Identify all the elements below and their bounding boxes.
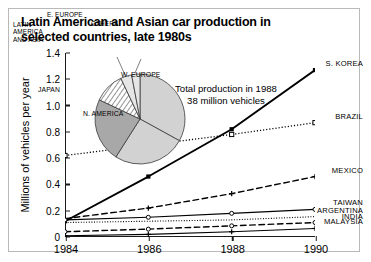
- series-line-argentina: [65, 217, 315, 223]
- y-tick-label: 0.6: [46, 153, 66, 164]
- series-line-malaysia: [65, 228, 315, 235]
- pie-label-w-europe: W. EUROPE: [121, 71, 160, 79]
- data-point-marker: [313, 221, 315, 225]
- x-tick-mark: [315, 236, 316, 241]
- y-tick-label: 1.2: [46, 74, 66, 85]
- y-tick-label: 1.4: [46, 48, 66, 59]
- x-tick-label: 1990: [304, 236, 328, 255]
- plot-area: 00.20.40.60.81.01.21.41984198619881990 L…: [9, 9, 361, 253]
- x-tick-label: 1988: [220, 236, 244, 255]
- data-point-marker: [312, 174, 315, 179]
- pie-label-e-europe: E. EUROPE: [47, 11, 83, 18]
- data-point-marker: [313, 121, 315, 125]
- data-point-marker: [146, 205, 151, 210]
- pie-label-n-america: N. AMERICA: [83, 110, 123, 118]
- chart-card: Latin American and Asian car production …: [8, 8, 360, 252]
- data-point-marker: [312, 226, 315, 231]
- series-label-brazil: BRAZIL: [317, 111, 363, 120]
- data-point-marker: [146, 232, 151, 237]
- data-point-marker: [230, 211, 234, 215]
- data-point-marker: [229, 191, 234, 196]
- pie-label-latin-america-asia: LATIN AMERICA AND ASIA: [13, 21, 43, 43]
- data-point-marker: [230, 224, 234, 228]
- y-tick-label: 0.4: [46, 179, 66, 190]
- series-line-taiwan: [65, 209, 315, 220]
- x-tick-label: 1984: [54, 236, 78, 255]
- data-point-marker: [313, 68, 315, 72]
- pie-label-others: OTHERS: [91, 20, 118, 27]
- y-tick-label: 0.2: [46, 205, 66, 216]
- x-tick-label: 1986: [137, 236, 161, 255]
- y-tick-label: 0.8: [46, 126, 66, 137]
- data-point-marker: [146, 215, 150, 219]
- data-point-marker: [146, 227, 150, 231]
- data-point-marker: [229, 229, 234, 234]
- series-label-malaysia: MALAYSIA: [317, 217, 363, 226]
- series-label-s-korea: S. KOREA: [317, 59, 363, 68]
- pie-label-japan: JAPAN: [38, 86, 60, 94]
- data-point-marker: [313, 207, 315, 211]
- annotation-line-2: 38 million vehicles: [161, 95, 291, 107]
- annotation-line-1: Total production in 1988: [161, 83, 291, 95]
- total-production-annotation: Total production in 1988 38 million vehi…: [161, 83, 291, 107]
- series-label-mexico: MEXICO: [317, 165, 363, 174]
- data-point-marker: [65, 218, 67, 222]
- y-tick-label: 1.0: [46, 100, 66, 111]
